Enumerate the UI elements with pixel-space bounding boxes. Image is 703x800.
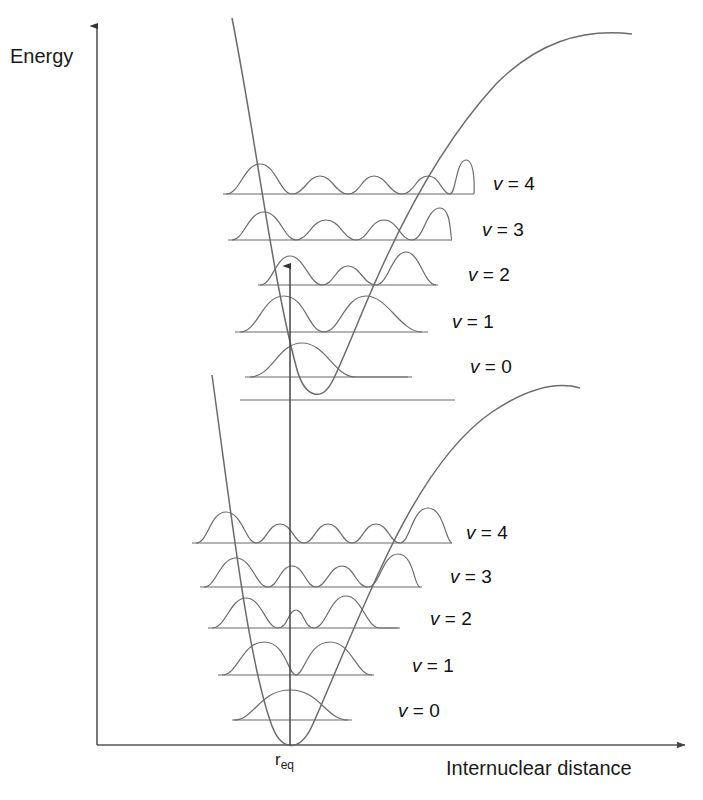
level-label-lower-v3: v = 3	[450, 566, 492, 588]
excited-state-potential-curve	[232, 18, 632, 394]
internuclear-distance-axis-label: Internuclear distance	[446, 757, 632, 780]
level-label-upper-v1: v = 1	[452, 311, 494, 333]
level-label-lower-v2-symbol: v	[430, 608, 440, 629]
level-label-lower-v3-symbol: v	[450, 566, 460, 587]
level-label-upper-v0: v = 0	[470, 356, 512, 378]
wavefunction-upper-v1	[240, 296, 422, 332]
ground-state-potential-curve	[212, 375, 580, 746]
level-label-lower-v4-value: = 4	[481, 522, 508, 543]
level-label-upper-v2: v = 2	[468, 264, 510, 286]
level-label-lower-v1: v = 1	[412, 655, 454, 677]
wavefunction-lower-v0	[234, 690, 348, 720]
level-label-upper-v4-symbol: v	[493, 173, 503, 194]
level-label-lower-v0-value: = 0	[413, 700, 440, 721]
level-label-lower-v0-symbol: v	[398, 700, 408, 721]
level-label-lower-v4: v = 4	[466, 522, 508, 544]
ground-state-levels-group	[192, 508, 452, 720]
excited-state-levels-group	[223, 160, 474, 400]
level-label-lower-v2-value: = 2	[445, 608, 472, 629]
level-label-lower-v4-symbol: v	[466, 522, 476, 543]
level-label-upper-v3-value: = 3	[497, 219, 524, 240]
wavefunction-upper-v0	[250, 343, 408, 377]
level-label-lower-v0: v = 0	[398, 700, 440, 722]
wavefunction-lower-v1	[222, 642, 372, 675]
level-label-upper-v3: v = 3	[482, 219, 524, 241]
req-subscript: eq	[281, 758, 294, 772]
wavefunction-lower-v3	[204, 554, 420, 587]
axes-group	[97, 26, 685, 745]
diagram-canvas	[0, 0, 703, 800]
level-label-upper-v4: v = 4	[493, 173, 535, 195]
level-label-upper-v4-value: = 4	[508, 173, 535, 194]
level-label-upper-v3-symbol: v	[482, 219, 492, 240]
level-label-lower-v2: v = 2	[430, 608, 472, 630]
level-label-lower-v3-value: = 3	[465, 566, 492, 587]
level-label-lower-v1-symbol: v	[412, 655, 422, 676]
level-label-upper-v1-symbol: v	[452, 311, 462, 332]
level-label-upper-v0-value: = 0	[485, 356, 512, 377]
morse-potential-diagram: Energy Internuclear distance req v = 0 v…	[0, 0, 703, 800]
req-marker-label: req	[275, 750, 294, 772]
level-label-upper-v1-value: = 1	[467, 311, 494, 332]
level-label-upper-v2-symbol: v	[468, 264, 478, 285]
level-label-lower-v1-value: = 1	[427, 655, 454, 676]
energy-axis-label: Energy	[10, 45, 73, 68]
wavefunction-lower-v2	[212, 596, 398, 628]
wavefunction-upper-v2	[260, 252, 436, 285]
level-label-upper-v0-symbol: v	[470, 356, 480, 377]
level-label-upper-v2-value: = 2	[483, 264, 510, 285]
wavefunction-upper-v4	[226, 160, 474, 194]
